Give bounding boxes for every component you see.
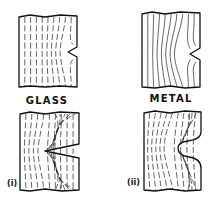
grain-line — [160, 113, 167, 190]
caption-glass: GLASS — [26, 95, 68, 106]
grain-line — [49, 153, 60, 190]
grain-line — [70, 17, 73, 45]
grain-line — [181, 113, 184, 190]
grain-line — [181, 152, 189, 190]
grain-line — [54, 114, 55, 190]
grain-line — [193, 113, 195, 190]
grain-line — [51, 114, 65, 149]
grain-lines — [148, 113, 196, 190]
grain-lines — [25, 17, 73, 86]
grain-line — [70, 59, 73, 86]
grain-line — [60, 17, 65, 86]
grain-line — [161, 14, 165, 87]
panel-metal-top — [142, 12, 200, 88]
grain-line — [152, 113, 156, 190]
grain-line — [148, 113, 150, 190]
panel-metal-bottom — [144, 111, 201, 191]
sub-label-i: (i) — [7, 179, 17, 188]
panel-outline — [142, 12, 200, 88]
grain-line — [24, 114, 26, 190]
grain-line — [193, 14, 196, 46]
panel-outline — [144, 111, 201, 191]
sub-label-ii: (ii) — [127, 178, 140, 187]
grain-line — [56, 17, 60, 86]
caption-metal: METAL — [150, 93, 193, 104]
figure-canvas: GLASS METAL (i) (ii) — [0, 0, 212, 201]
grain-line — [188, 14, 191, 49]
grain-line — [153, 14, 154, 87]
grain-line — [193, 62, 196, 87]
grain-line — [29, 114, 32, 190]
grain-line — [51, 17, 53, 86]
grain-line — [47, 17, 48, 86]
grain-line — [164, 113, 172, 190]
grain-line — [38, 114, 44, 190]
panel-glass-bottom — [20, 112, 79, 191]
grain-line — [157, 14, 159, 87]
grain-line — [55, 114, 75, 149]
grain-line — [170, 14, 177, 87]
grain-line — [188, 59, 191, 87]
grain-line — [174, 14, 182, 87]
grain-line — [33, 114, 37, 190]
grain-lines — [148, 14, 196, 87]
panel-glass-top — [19, 15, 77, 87]
grain-line — [51, 153, 65, 190]
grain-line — [181, 113, 189, 144]
grain-line — [174, 113, 178, 190]
